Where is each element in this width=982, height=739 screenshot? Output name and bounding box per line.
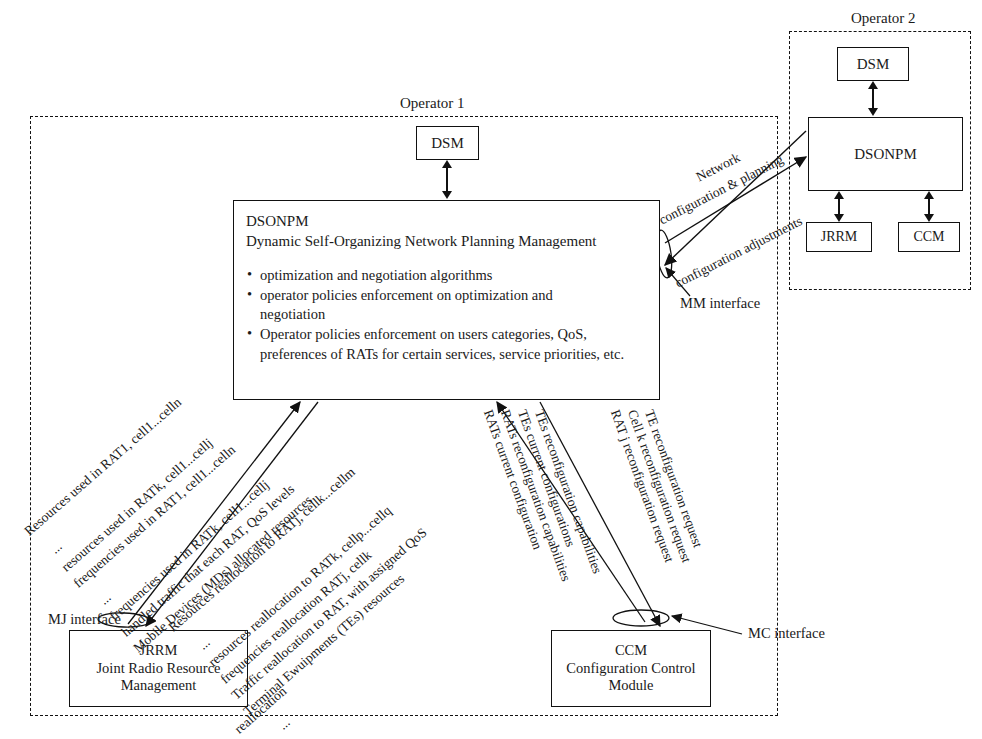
op1-dsonpm-box: DSONPM Dynamic Self-Organizing Network P… [233,200,660,400]
op2-jrrm-arrow-down-icon [834,214,844,222]
list-item: optimization and negotiation algorithms [246,266,624,285]
op1-ccm-box: CCM Configuration Control Module [551,630,711,707]
op1-dsm-arrow-up-icon [442,160,452,168]
mc-interface-label: MC interface [748,626,825,641]
op2-jrrm-box: JRRM [806,222,872,252]
op1-jrrm-line2: Joint Radio Resource [96,660,220,678]
op2-jrrm-label: JRRM [821,228,858,245]
op2-ccm-arrow-up-icon [924,191,934,199]
list-item: Operator policies enforcement on users c… [246,325,624,364]
op2-dsm-arrow-down-icon [868,108,878,116]
op2-dsm-arrow-up-icon [868,81,878,89]
op2-ccm-label: CCM [913,228,944,245]
op1-ccm-line3: Module [608,677,653,695]
op2-jrrm-arrow-up-icon [834,191,844,199]
op1-dsm-box: DSM [416,126,479,160]
mm-interface-label: MM interface [680,296,760,311]
op2-dsm-box: DSM [837,47,909,81]
op1-ccm-line2: Configuration Control [566,660,695,678]
op2-dsonpm-box: DSONPM [808,117,963,191]
op1-jrrm-line3: Management [121,677,197,695]
op2-ccm-arrow-down-icon [924,214,934,222]
op1-jrrm-box: JRRM Joint Radio Resource Management [69,630,248,707]
op2-dsonpm-label: DSONPM [854,145,917,163]
op1-dsonpm-expansion: Dynamic Self-Organizing Network Planning… [246,231,596,251]
op2-ccm-box: CCM [898,222,960,252]
op1-dsonpm-acronym: DSONPM [246,211,596,231]
op1-dsm-arrow-down-icon [442,191,452,199]
diagram-canvas: Operator 1 Operator 2 DSM [0,0,982,739]
op1-ccm-acronym: CCM [615,642,647,660]
op1-dsonpm-feature-list: optimization and negotiation algorithms … [246,266,624,365]
list-item: operator policies enforcement on optimiz… [246,286,624,325]
op1-dsm-label: DSM [431,134,464,152]
op2-dsm-label: DSM [857,55,890,73]
